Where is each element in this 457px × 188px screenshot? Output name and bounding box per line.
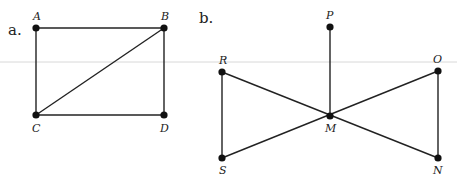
point-label-N: N [432, 164, 443, 177]
point-A [32, 24, 39, 31]
point-S [218, 154, 225, 161]
geometry-diagram: a.ABCD b.PROMSN [0, 0, 457, 188]
point-P [326, 23, 333, 30]
point-C [32, 111, 39, 118]
part-label-b: b. [199, 9, 213, 27]
point-label-C: C [32, 122, 41, 135]
point-label-P: P [325, 9, 334, 22]
point-label-S: S [219, 164, 227, 177]
point-label-M: M [324, 122, 337, 135]
point-label-O: O [433, 53, 442, 66]
point-label-R: R [218, 54, 227, 67]
point-R [218, 68, 225, 75]
segment-CB [36, 28, 164, 115]
figure-b-bowtie: b.PROMSN [199, 9, 443, 177]
point-D [160, 111, 167, 118]
point-N [434, 154, 441, 161]
part-label-a: a. [8, 21, 22, 39]
figure-a-rectangle: a.ABCD [8, 10, 169, 135]
point-O [434, 67, 441, 74]
point-M [326, 112, 333, 119]
point-label-A: A [32, 10, 41, 23]
point-label-D: D [159, 122, 169, 135]
point-label-B: B [160, 10, 169, 23]
point-B [160, 24, 167, 31]
